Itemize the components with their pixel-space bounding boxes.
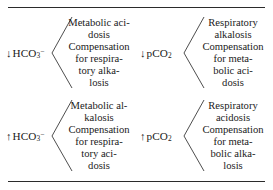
text-line: Compensation	[194, 123, 272, 135]
analyte-name: HCO	[13, 46, 37, 58]
up-arrow-icon: ↑	[140, 129, 147, 141]
text-line: Compensation	[62, 40, 136, 52]
analyte-subscript: 2	[168, 51, 172, 60]
text-decreased-bicarbonate: Metabolic aci- dosis Compensation for re…	[62, 16, 136, 88]
text-line: for respira-	[62, 53, 136, 65]
cell-decreased-bicarbonate: ↓HCO3− Metabolic aci- dosis Compensation…	[0, 11, 136, 94]
text-decreased-pco2: Respiratory alkalosis Compensation for m…	[194, 16, 272, 88]
text-line: Compensation	[194, 40, 272, 52]
acid-base-disorders-figure: ↓HCO3− Metabolic aci- dosis Compensation…	[0, 0, 273, 190]
analyte-subscript: 2	[168, 134, 172, 143]
text-line: losis	[62, 77, 136, 89]
text-increased-pco2: Respiratory acidosis Compensation for me…	[194, 99, 272, 171]
top-horizontal-rule	[8, 7, 265, 8]
text-line: dosis	[62, 28, 136, 40]
text-line: Metabolic al-	[62, 99, 136, 111]
cell-increased-bicarbonate: ↑HCO3− Metabolic al- kalosis Compensatio…	[0, 94, 136, 177]
down-arrow-icon: ↓	[6, 46, 13, 58]
up-arrow-icon: ↑	[6, 129, 13, 141]
text-increased-bicarbonate: Metabolic al- kalosis Compensation for r…	[62, 99, 136, 171]
analyte-charge: −	[40, 129, 44, 138]
analyte-charge: −	[40, 46, 44, 55]
text-line: for meta-	[194, 53, 272, 65]
bottom-horizontal-rule	[8, 181, 265, 182]
disorders-grid: ↓HCO3− Metabolic aci- dosis Compensation…	[0, 11, 273, 177]
text-line: alkalosis	[194, 28, 272, 40]
label-increased-pco2: ↑pCO2	[140, 129, 172, 142]
text-line: Respiratory	[194, 99, 272, 111]
text-line: tory alka-	[62, 65, 136, 77]
text-line: Compensation	[62, 123, 136, 135]
text-line: tory aci-	[62, 148, 136, 160]
label-decreased-pco2: ↓pCO2	[140, 46, 172, 59]
text-line: Respiratory	[194, 16, 272, 28]
analyte-name: pCO	[147, 46, 168, 58]
analyte-name: pCO	[147, 129, 168, 141]
text-line: losis	[194, 160, 272, 172]
text-line: dosis	[194, 77, 272, 89]
text-line: for meta-	[194, 136, 272, 148]
cell-increased-pco2: ↑pCO2 Respiratory acidosis Compensation …	[136, 94, 272, 177]
text-line: kalosis	[62, 111, 136, 123]
label-decreased-bicarbonate: ↓HCO3−	[6, 46, 45, 59]
text-line: bolic aci-	[194, 65, 272, 77]
label-increased-bicarbonate: ↑HCO3−	[6, 129, 45, 142]
text-line: acidosis	[194, 111, 272, 123]
text-line: bolic alka-	[194, 148, 272, 160]
text-line: dosis	[62, 160, 136, 172]
cell-decreased-pco2: ↓pCO2 Respiratory alkalosis Compensation…	[136, 11, 272, 94]
text-line: Metabolic aci-	[62, 16, 136, 28]
text-line: for respira-	[62, 136, 136, 148]
analyte-name: HCO	[13, 129, 37, 141]
down-arrow-icon: ↓	[140, 46, 147, 58]
